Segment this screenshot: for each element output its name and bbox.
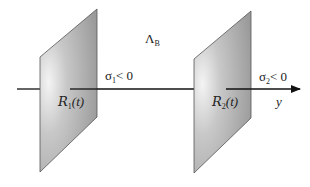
sigma-2-condition: σ2< 0 — [259, 70, 287, 86]
plane-r2-label: R2(t) — [212, 95, 238, 111]
plane-r1-label: R1(t) — [58, 95, 84, 111]
sigma-1-inequality: < 0 — [116, 68, 133, 83]
diagram-graphics — [0, 0, 310, 187]
lambda-subscript: B — [154, 39, 159, 48]
y-axis-label: y — [276, 95, 282, 108]
region-label-lambda-b: ΛB — [145, 32, 160, 48]
r1-symbol: R — [58, 94, 68, 109]
sigma-1-condition: σ1< 0 — [105, 69, 133, 85]
r2-argument: (t) — [226, 94, 238, 109]
plane-r1 — [40, 9, 97, 172]
r1-argument: (t) — [72, 94, 84, 109]
sigma-2-inequality: < 0 — [270, 69, 287, 84]
diagram-canvas: ΛB σ1< 0 σ2< 0 R1(t) R2(t) y — [0, 0, 310, 187]
r2-symbol: R — [212, 94, 222, 109]
plane-r2 — [194, 11, 251, 173]
sigma-1-symbol: σ — [105, 68, 112, 83]
sigma-2-symbol: σ — [259, 69, 266, 84]
